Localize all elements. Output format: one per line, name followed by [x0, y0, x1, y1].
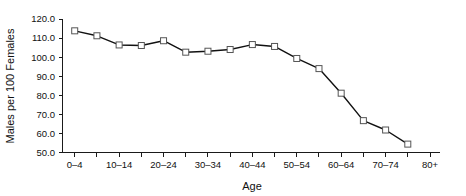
line-chart-plot: 120.0110.0100.090.080.070.060.050.0 0–41… — [0, 0, 466, 196]
x-axis-title: Age — [242, 180, 262, 192]
y-tick-label: 90.0 — [37, 71, 56, 82]
data-point-marker — [338, 90, 344, 96]
y-axis-title: Males per 100 Females — [4, 28, 16, 143]
x-axis-tick-labels: 0–410–1420–2430–3440–4450–5460–6470–7480… — [67, 159, 439, 170]
data-point-marker — [405, 141, 411, 147]
x-tick-label: 60–64 — [328, 159, 354, 170]
series-markers — [72, 28, 411, 147]
data-point-marker — [294, 55, 300, 61]
x-tick-label: 80+ — [422, 159, 439, 170]
y-tick-label: 110.0 — [32, 32, 55, 43]
data-series-group — [72, 28, 411, 147]
chart-container: 120.0110.0100.090.080.070.060.050.0 0–41… — [0, 0, 466, 196]
y-tick-label: 100.0 — [31, 52, 55, 63]
y-tick-label: 60.0 — [37, 128, 56, 139]
y-axis: 120.0110.0100.090.080.070.060.050.0 — [31, 13, 62, 158]
x-tick-label: 10–14 — [106, 159, 132, 170]
data-point-marker — [383, 127, 389, 133]
data-point-marker — [227, 47, 233, 53]
data-point-marker — [249, 42, 255, 48]
data-point-marker — [183, 49, 189, 55]
x-tick-label: 0–4 — [67, 159, 83, 170]
x-tick-label: 40–44 — [239, 159, 265, 170]
x-tick-label: 30–34 — [195, 159, 221, 170]
y-tick-label: 50.0 — [37, 147, 56, 158]
y-tick-label: 70.0 — [37, 109, 56, 120]
data-point-marker — [161, 38, 167, 44]
series-line-males-per-100-females — [75, 31, 408, 144]
data-point-marker — [94, 33, 100, 39]
data-point-marker — [72, 28, 78, 34]
data-point-marker — [205, 48, 211, 54]
x-tick-label: 20–24 — [150, 159, 176, 170]
y-tick-label: 120.0 — [31, 13, 55, 24]
y-axis-ticks — [59, 19, 63, 153]
x-tick-label: 50–54 — [284, 159, 310, 170]
data-point-marker — [360, 118, 366, 124]
data-point-marker — [116, 42, 122, 48]
x-tick-label: 70–74 — [372, 159, 398, 170]
data-point-marker — [138, 43, 144, 49]
x-axis: 0–410–1420–2430–3440–4450–5460–6470–7480… — [63, 153, 441, 171]
data-point-marker — [316, 66, 322, 72]
y-axis-tick-labels: 120.0110.0100.090.080.070.060.050.0 — [31, 13, 55, 158]
x-axis-ticks — [75, 153, 430, 158]
y-tick-label: 80.0 — [37, 90, 56, 101]
data-point-marker — [272, 43, 278, 49]
